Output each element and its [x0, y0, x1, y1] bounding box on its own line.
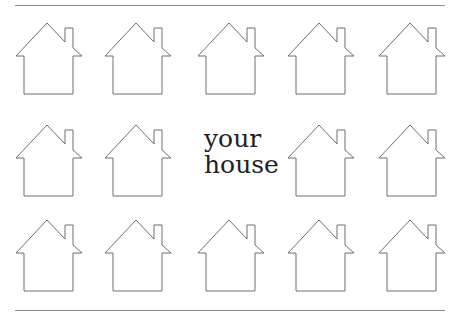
- house-outline-icon: [15, 122, 85, 198]
- house-outline-icon: [378, 217, 448, 293]
- house-outline-icon: [287, 122, 357, 198]
- house-outline-icon: [197, 217, 267, 293]
- house-outline-icon: [104, 20, 174, 96]
- house-outline-icon: [104, 217, 174, 293]
- bottom-rule: [15, 310, 445, 311]
- house-outline-icon: [15, 20, 85, 96]
- house-outline-icon: [378, 122, 448, 198]
- house-outline-icon: [378, 20, 448, 96]
- label-line-1: your: [204, 126, 279, 152]
- top-rule: [15, 5, 445, 6]
- house-outline-icon: [104, 122, 174, 198]
- house-outline-icon: [287, 20, 357, 96]
- label-line-2: house: [204, 152, 279, 178]
- house-outline-icon: [287, 217, 357, 293]
- your-house-label: your house: [204, 126, 279, 178]
- house-outline-icon: [197, 20, 267, 96]
- house-outline-icon: [15, 217, 85, 293]
